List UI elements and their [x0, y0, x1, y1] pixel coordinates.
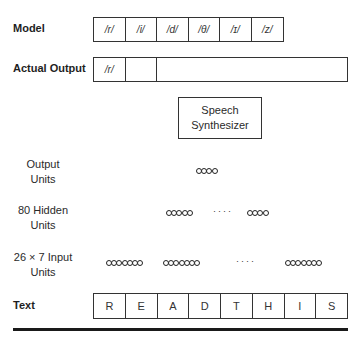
hidden-units-ellipsis: ····	[213, 206, 233, 216]
input-units-group-2	[163, 260, 199, 266]
output-units-label: Output Units	[3, 157, 83, 187]
hidden-units-group-2	[247, 210, 268, 216]
output-units-label-line1: Output	[3, 157, 83, 172]
synth-line1: Speech	[179, 103, 261, 118]
text-letter-cell: S	[316, 294, 347, 318]
input-units-label-line1: 26 × 7 Input	[3, 250, 83, 265]
model-phoneme-cell: /i/	[126, 18, 158, 41]
model-phoneme-cell: /z/	[252, 18, 284, 41]
text-letter-sequence: R E A D T H I S	[93, 293, 348, 319]
unit-node	[212, 168, 218, 174]
model-phoneme-sequence: /r/ /i/ /d/ /θ/ /ɪ/ /z/	[93, 17, 284, 42]
text-letter-cell: E	[126, 294, 158, 318]
text-letter-cell: R	[94, 294, 126, 318]
hidden-units-label-line2: Units	[3, 218, 83, 233]
text-label: Text	[13, 299, 35, 311]
input-units-group-1	[106, 260, 142, 266]
hidden-units-label-line1: 80 Hidden	[3, 203, 83, 218]
model-label: Model	[13, 22, 45, 34]
unit-node	[187, 210, 193, 216]
actual-output-label: Actual Output	[13, 62, 86, 74]
input-units-label: 26 × 7 Input Units	[3, 250, 83, 280]
unit-node	[137, 260, 143, 266]
text-letter-cell: I	[285, 294, 317, 318]
actual-phoneme-cell	[157, 58, 347, 81]
output-units-group	[196, 168, 217, 174]
input-units-ellipsis: ····	[236, 256, 256, 266]
model-phoneme-cell: /d/	[157, 18, 189, 41]
input-units-group-3	[285, 260, 321, 266]
unit-node	[316, 260, 322, 266]
unit-node	[194, 260, 200, 266]
model-phoneme-cell: /r/	[94, 18, 126, 41]
text-letter-cell: D	[189, 294, 221, 318]
input-units-label-line2: Units	[3, 265, 83, 280]
hidden-units-label: 80 Hidden Units	[3, 203, 83, 233]
bottom-divider	[13, 328, 348, 331]
model-phoneme-cell: /ɪ/	[220, 18, 252, 41]
actual-phoneme-cell	[126, 58, 158, 81]
text-letter-cell: A	[158, 294, 190, 318]
text-letter-cell: H	[253, 294, 285, 318]
text-letter-cell: T	[221, 294, 253, 318]
actual-output-sequence: /r/	[93, 57, 348, 82]
model-phoneme-cell: /θ/	[189, 18, 221, 41]
output-units-label-line2: Units	[3, 172, 83, 187]
unit-node	[263, 210, 269, 216]
synth-line2: Synthesizer	[179, 118, 261, 133]
speech-synthesizer-box: Speech Synthesizer	[178, 97, 262, 139]
actual-phoneme-cell: /r/	[94, 58, 126, 81]
hidden-units-group-1	[166, 210, 192, 216]
